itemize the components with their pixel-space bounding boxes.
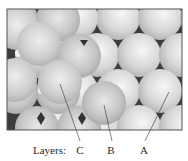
packing-area bbox=[0, 0, 188, 150]
caption-layers: Layers: bbox=[33, 144, 66, 156]
label-a: A bbox=[140, 144, 148, 156]
label-c: C bbox=[76, 144, 83, 156]
label-b: B bbox=[107, 144, 114, 156]
sphere-packing-diagram: Layers: C B A bbox=[0, 0, 188, 161]
